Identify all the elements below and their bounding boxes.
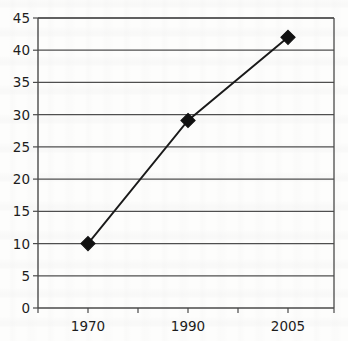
y-axis-label-5: 5 <box>21 268 30 284</box>
y-axis-ticks <box>33 18 38 308</box>
x-axis-labels: 1970 1990 2005 <box>71 318 305 334</box>
y-axis-label-45: 45 <box>13 10 30 26</box>
y-axis-label-40: 40 <box>13 42 30 58</box>
x-axis-ticks <box>38 308 334 313</box>
chart-canvas: 45 40 35 30 25 20 15 10 5 0 1970 1990 20… <box>0 0 348 341</box>
y-axis-label-10: 10 <box>13 236 30 252</box>
y-axis-label-20: 20 <box>13 171 30 187</box>
y-axis-label-15: 15 <box>13 203 30 219</box>
series-line-path <box>88 37 288 243</box>
line-chart: 45 40 35 30 25 20 15 10 5 0 1970 1990 20… <box>0 0 348 341</box>
y-axis-label-25: 25 <box>13 139 30 155</box>
gridlines <box>38 18 334 276</box>
y-axis-label-0: 0 <box>21 300 30 316</box>
y-axis-label-35: 35 <box>13 74 30 90</box>
data-series <box>81 30 295 250</box>
x-axis-label-1990: 1990 <box>171 318 205 334</box>
y-axis-labels: 45 40 35 30 25 20 15 10 5 0 <box>13 10 30 316</box>
y-axis-label-30: 30 <box>13 107 30 123</box>
plot-frame <box>38 18 334 308</box>
x-axis-label-2005: 2005 <box>271 318 305 334</box>
x-axis-label-1970: 1970 <box>71 318 105 334</box>
